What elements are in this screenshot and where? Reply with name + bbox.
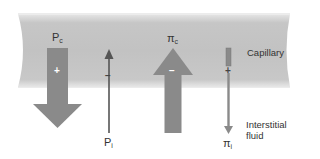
pic-sign: − xyxy=(169,66,175,76)
pii-label: πi xyxy=(223,138,232,149)
pi-sign: − xyxy=(105,71,111,81)
capillary-label: Capillary xyxy=(247,48,284,59)
pii-sign: + xyxy=(225,66,231,76)
pic-label: πc xyxy=(167,33,178,44)
pc-label: Pc xyxy=(52,32,63,43)
interstitial-fluid-label: Interstitial fluid xyxy=(246,120,287,142)
pc-sign: + xyxy=(54,66,60,76)
pi-label: Pi xyxy=(104,137,113,148)
interstitial-label-line2: fluid xyxy=(246,131,287,142)
